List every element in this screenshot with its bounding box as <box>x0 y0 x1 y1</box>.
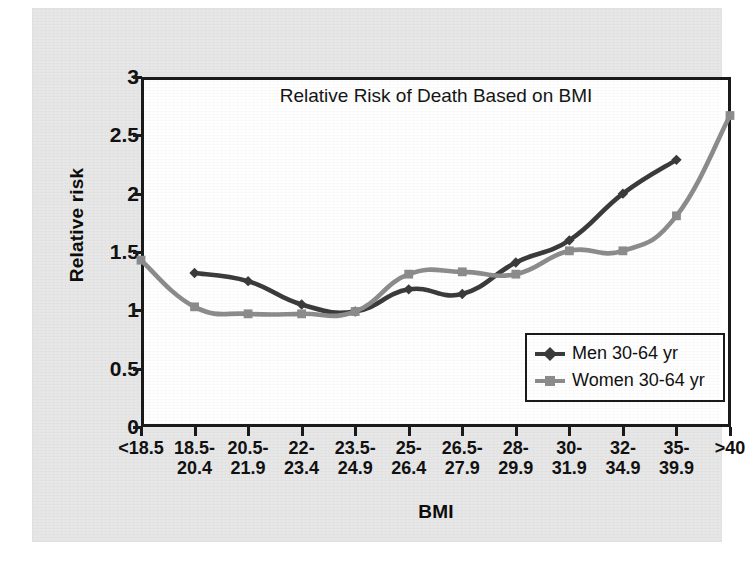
x-tick-mark <box>675 427 678 436</box>
series-marker <box>296 299 306 309</box>
chart-legend: Men 30-64 yr Women 30-64 yr <box>525 333 725 402</box>
x-tick-mark <box>354 427 357 436</box>
legend-label-women: Women 30-64 yr <box>572 370 705 391</box>
series-marker <box>511 270 520 279</box>
series-marker <box>565 246 574 255</box>
series-line <box>141 116 730 316</box>
x-axis-title: BMI <box>141 501 731 523</box>
series-marker <box>351 307 360 316</box>
series-marker <box>404 284 414 294</box>
series-marker <box>297 309 306 318</box>
x-tick-mark <box>301 427 304 436</box>
figure-root: Relative Risk of Death Based on BMI Rela… <box>0 0 754 561</box>
series-marker <box>189 268 199 278</box>
figure-panel: Relative Risk of Death Based on BMI Rela… <box>33 9 721 541</box>
legend-swatch-women-icon <box>535 374 565 388</box>
x-tick-mark <box>247 427 250 436</box>
x-tick-mark <box>461 427 464 436</box>
series-marker <box>726 111 735 120</box>
series-men <box>189 155 681 317</box>
series-marker <box>457 289 467 299</box>
series-marker <box>244 309 253 318</box>
x-tick-mark <box>729 427 732 436</box>
series-marker <box>404 270 413 279</box>
legend-item-men: Men 30-64 yr <box>535 340 715 367</box>
x-tick-mark <box>622 427 625 436</box>
series-marker <box>458 267 467 276</box>
series-marker <box>137 256 146 265</box>
series-marker <box>243 276 253 286</box>
legend-item-women: Women 30-64 yr <box>535 367 715 394</box>
series-marker <box>672 211 681 220</box>
x-tick-mark <box>568 427 571 436</box>
x-tick-mark <box>140 427 143 436</box>
series-women <box>137 111 735 318</box>
series-line <box>195 160 677 313</box>
legend-swatch-men-icon <box>535 347 565 361</box>
x-tick-mark <box>194 427 197 436</box>
series-marker <box>190 302 199 311</box>
series-marker <box>619 246 628 255</box>
x-tick-mark <box>515 427 518 436</box>
y-axis-tick-labels: 00.511.522.53 <box>85 9 139 561</box>
legend-label-men: Men 30-64 yr <box>572 343 678 364</box>
x-tick-label: >40 <box>687 438 754 458</box>
x-tick-mark <box>408 427 411 436</box>
